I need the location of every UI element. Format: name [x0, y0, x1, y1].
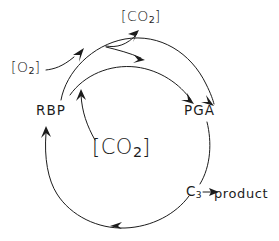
label-co2-middle-text: [CO [92, 135, 133, 159]
label-product-text: product [214, 186, 268, 201]
label-c3-subscript: 3 [196, 189, 202, 200]
diagram-canvas: [CO2] [O2] RBP PGA [CO2] C3 product [0, 0, 279, 241]
o2-feed-line [46, 57, 74, 70]
label-c3-text: C [186, 183, 196, 199]
pga-to-c3-arc-path [200, 122, 210, 184]
label-rbp-text: RBP [36, 102, 66, 118]
label-c3: C3 [186, 185, 202, 199]
label-co2-top: [CO2] [121, 9, 161, 25]
outer-arc-arrowhead-left [73, 48, 84, 62]
inner-top-arc-path [70, 67, 191, 100]
cycle-arrows-svg [0, 0, 279, 241]
label-o2-left: [O2] [11, 60, 41, 76]
co2-fix-feed-path [81, 95, 95, 140]
label-co2-middle-close: ] [142, 135, 151, 159]
label-o2-close: ] [35, 59, 41, 75]
label-co2-middle-subscript: 2 [133, 144, 142, 160]
label-pga: PGA [184, 104, 215, 118]
label-pga-text: PGA [184, 102, 215, 118]
label-co2-top-close: ] [155, 8, 161, 24]
co2-release-branch-path [106, 34, 137, 47]
co2-branch-fork-arrowhead [133, 55, 145, 63]
label-product: product [214, 187, 268, 200]
outer-top-arc-path [61, 38, 214, 104]
label-o2-text: [O [11, 59, 28, 75]
label-co2-top-text: [CO [121, 8, 149, 24]
label-co2-middle: [CO2] [92, 137, 151, 159]
label-rbp: RBP [36, 104, 66, 118]
